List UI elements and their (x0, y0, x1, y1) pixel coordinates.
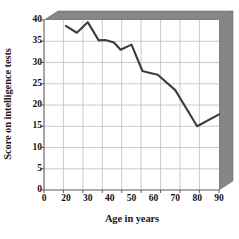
intelligence-vs-age-line-chart: 0510152025303540 02030405060708090 Score… (0, 0, 239, 239)
x-tick-label: 80 (192, 194, 202, 204)
x-tick-label: 30 (83, 194, 93, 204)
x-tick-label: 90 (214, 194, 224, 204)
x-tick-label: 20 (61, 194, 71, 204)
x-tick-label: 40 (105, 194, 115, 204)
x-tick-label: 60 (149, 194, 159, 204)
x-axis-title: Age in years (44, 213, 220, 224)
x-tick-label: 70 (171, 194, 181, 204)
y-axis-title: Score on intelligence tests (2, 14, 16, 194)
x-tick-label: 50 (127, 194, 137, 204)
x-tick-label: 0 (42, 194, 47, 204)
x-axis-tick-labels: 02030405060708090 (0, 0, 239, 239)
